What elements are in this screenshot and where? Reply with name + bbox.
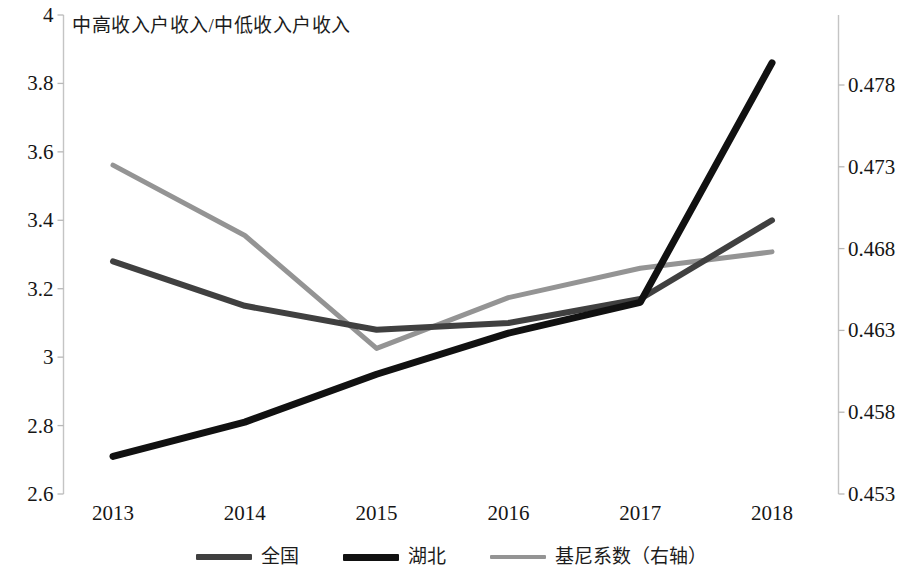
y-axis-right-tick-label: 0.453 (848, 484, 903, 505)
chart-line-series (113, 63, 772, 456)
legend-item[interactable]: 全国 (196, 546, 299, 568)
y-axis-left-tick-label: 3.2 (0, 279, 54, 300)
right-axis (839, 15, 845, 494)
left-axis (58, 15, 64, 494)
y-axis-left-tick-label: 3.8 (0, 73, 54, 94)
x-axis-tick-label: 2017 (595, 503, 685, 524)
y-axis-left-tick-label: 3 (0, 347, 54, 368)
legend-swatch-icon (196, 554, 252, 560)
legend-swatch-icon (343, 554, 399, 561)
chart-container: 中高收入户收入/中低收入户收入 43.83.63.43.232.82.6 0.4… (0, 0, 903, 573)
x-axis-tick-label: 2013 (68, 503, 158, 524)
legend-label: 湖北 (408, 546, 446, 568)
y-axis-right-tick-label: 0.473 (848, 157, 903, 178)
y-axis-right-tick-label: 0.463 (848, 320, 903, 341)
x-axis-tick-label: 2015 (332, 503, 422, 524)
legend-item[interactable]: 基尼系数（右轴） (490, 546, 707, 568)
x-axis-tick-label: 2014 (200, 503, 290, 524)
x-axis-tick-label: 2016 (463, 503, 553, 524)
chart-plot-area (0, 0, 903, 573)
legend-label: 全国 (261, 546, 299, 568)
legend-label: 基尼系数（右轴） (555, 546, 707, 568)
legend-item[interactable]: 湖北 (343, 546, 446, 568)
y-axis-left-tick-label: 2.8 (0, 416, 54, 437)
legend-swatch-icon (490, 555, 546, 559)
chart-series-group (113, 63, 772, 456)
y-axis-right-tick-label: 0.468 (848, 239, 903, 260)
y-axis-right-tick-label: 0.458 (848, 402, 903, 423)
x-axis-tick-label: 2018 (727, 503, 817, 524)
chart-legend: 全国湖北基尼系数（右轴） (0, 546, 903, 568)
y-axis-left-tick-label: 3.4 (0, 210, 54, 231)
y-axis-right-tick-label: 0.478 (848, 75, 903, 96)
y-axis-left-tick-label: 3.6 (0, 142, 54, 163)
chart-line-series (113, 165, 772, 348)
y-axis-left-tick-label: 2.6 (0, 484, 54, 505)
y-axis-left-tick-label: 4 (0, 5, 54, 26)
